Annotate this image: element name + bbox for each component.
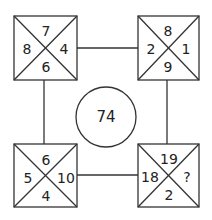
top-left-top-value: 7 <box>42 23 51 39</box>
top-right-top-value: 8 <box>164 23 173 39</box>
center-value: 74 <box>96 108 115 126</box>
bottom-right-unknown-value: ? <box>183 169 190 185</box>
bottom-left-top-value: 6 <box>42 152 51 168</box>
top-right-bottom-value: 9 <box>164 59 173 75</box>
top-left-bottom-value: 6 <box>42 59 51 75</box>
bottom-left-left-value: 5 <box>24 170 33 186</box>
bottom-left-right-value: 10 <box>57 170 75 186</box>
top-left-left-value: 8 <box>23 41 32 57</box>
top-right-right-value: 1 <box>182 41 191 57</box>
top-left-right-value: 4 <box>60 41 69 57</box>
top-right-left-value: 2 <box>147 41 156 57</box>
bottom-left-bottom-value: 4 <box>42 188 51 204</box>
bottom-right-top-value: 19 <box>160 151 178 167</box>
number-puzzle-diagram: 74 7 8 4 6 8 2 1 9 6 5 10 4 19 18 ? 2 <box>0 0 212 220</box>
bottom-right-bottom-value: 2 <box>165 187 174 203</box>
bottom-right-left-value: 18 <box>141 169 159 185</box>
